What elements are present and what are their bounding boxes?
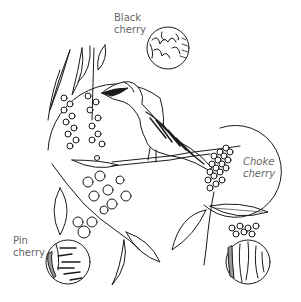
black-cherry-label-line2: cherry <box>114 24 146 36</box>
waxwing-bird <box>102 82 212 170</box>
choke-leaf <box>172 210 206 250</box>
choke-cherry-label-line1: Choke <box>243 156 275 168</box>
cherry-illustration: Black cherry Choke cherry Pin cherry <box>0 0 301 302</box>
pin-cherry-label-line1: Pin <box>13 235 45 247</box>
pin-leaf-3 <box>112 240 126 285</box>
pin-cherry-bark-inset <box>46 240 90 284</box>
pin-leaf-1 <box>54 188 67 235</box>
choke-cherry-label-line2: cherry <box>243 168 275 180</box>
pin-cherry-label: Pin cherry <box>13 235 45 259</box>
black-cherry-leaves <box>48 45 106 120</box>
pin-branch <box>52 164 140 250</box>
black-cherry-bark-inset <box>147 27 189 69</box>
pin-leaf-2 <box>126 232 160 262</box>
black-cherry-label: Black cherry <box>114 12 146 36</box>
choke-cherry-label: Choke cherry <box>243 156 275 180</box>
pin-cherry-flowers <box>73 171 131 238</box>
pin-cherry-label-line2: cherry <box>13 247 45 259</box>
line-drawing <box>0 0 301 302</box>
black-cherry-fruits <box>61 93 105 161</box>
black-cherry-label-line1: Black <box>114 12 146 24</box>
choke-cherry-bark-inset <box>226 240 270 284</box>
pin-leaf-4 <box>72 160 118 168</box>
choke-cherry-flowers-lower <box>229 223 259 237</box>
